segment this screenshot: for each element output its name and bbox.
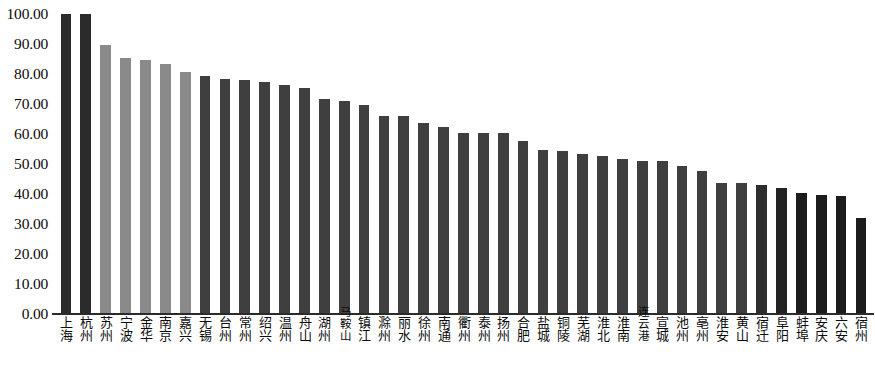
bar <box>816 195 827 314</box>
x-axis-tick-label: 衢州 <box>457 316 470 342</box>
bar-slot <box>275 14 295 314</box>
bar-slot <box>96 14 116 314</box>
bar-slot <box>593 14 613 314</box>
bar <box>836 196 847 314</box>
bar-slot <box>632 14 652 314</box>
bar-slot <box>175 14 195 314</box>
x-axis-tick-label: 宣城 <box>656 316 669 342</box>
bar-slot <box>692 14 712 314</box>
bar <box>617 159 628 314</box>
x-axis-tick-label: 徐州 <box>417 316 430 342</box>
x-axis-tick: 淮南 <box>613 316 633 377</box>
bar-slot <box>215 14 235 314</box>
y-axis-tick-label: 60.00 <box>14 126 48 142</box>
bar <box>220 79 231 314</box>
bar-slot <box>374 14 394 314</box>
bar <box>736 183 747 314</box>
x-axis-tick-label: 宿迁 <box>755 316 768 342</box>
x-axis-tick-label: 阜阳 <box>775 316 788 342</box>
x-axis-tick-label: 铜陵 <box>556 316 569 342</box>
x-axis-tick-label: 舟山 <box>298 316 311 342</box>
y-axis-tick-label: 10.00 <box>14 276 48 292</box>
bar-slot <box>414 14 434 314</box>
x-axis-tick-label: 淮南 <box>616 316 629 342</box>
bar <box>200 76 211 314</box>
x-axis-tick: 芜湖 <box>573 316 593 377</box>
x-axis-tick-label: 常州 <box>238 316 251 342</box>
bar <box>776 188 787 314</box>
x-axis-tick: 杭州 <box>76 316 96 377</box>
x-axis-tick: 苏州 <box>96 316 116 377</box>
bar <box>637 161 648 314</box>
bar <box>80 14 91 314</box>
x-axis-tick-label: 芜湖 <box>576 316 589 342</box>
bar <box>597 156 608 314</box>
x-axis-tick-label: 滁州 <box>377 316 390 342</box>
bar-slot <box>613 14 633 314</box>
bar-slot <box>573 14 593 314</box>
x-axis-tick: 南京 <box>155 316 175 377</box>
x-axis-tick-label: 合肥 <box>517 316 530 342</box>
x-axis-tick: 盐城 <box>533 316 553 377</box>
x-axis-tick: 嘉兴 <box>175 316 195 377</box>
x-axis-tick-label: 温州 <box>278 316 291 342</box>
y-axis-tick-label: 100.00 <box>7 6 48 22</box>
x-axis-tick-label: 湖州 <box>318 316 331 342</box>
x-axis-tick: 宣城 <box>652 316 672 377</box>
x-axis-tick-label: 无锡 <box>198 316 211 342</box>
y-axis-tick-label: 0.00 <box>22 306 48 322</box>
x-axis-tick-label: 上海 <box>59 316 72 342</box>
x-axis-tick-label: 黄山 <box>735 316 748 342</box>
bar-slot <box>195 14 215 314</box>
bar-slot <box>295 14 315 314</box>
bar <box>239 80 250 314</box>
x-axis-tick-label: 淮安 <box>715 316 728 342</box>
bar-slot <box>155 14 175 314</box>
x-axis-tick-label: 丽水 <box>397 316 410 342</box>
x-axis-tick-label: 苏州 <box>99 316 112 342</box>
bar <box>458 133 469 314</box>
bar <box>398 116 409 314</box>
bar-slot <box>136 14 156 314</box>
x-axis-tick: 无锡 <box>195 316 215 377</box>
y-axis-tick-label: 90.00 <box>14 36 48 52</box>
bar-chart: 100.0090.0080.0070.0060.0050.0040.0030.0… <box>0 0 875 377</box>
bar <box>518 141 529 314</box>
x-axis-tick: 铜陵 <box>553 316 573 377</box>
x-axis-tick: 宿迁 <box>752 316 772 377</box>
bar-series <box>56 14 871 314</box>
bar-slot <box>394 14 414 314</box>
x-axis-tick: 阜阳 <box>772 316 792 377</box>
x-axis-tick: 湖州 <box>314 316 334 377</box>
bar-slot <box>712 14 732 314</box>
x-axis-tick: 徐州 <box>414 316 434 377</box>
x-axis-tick-label: 宁波 <box>119 316 132 342</box>
x-axis-tick-label: 镇江 <box>357 316 370 342</box>
bar-slot <box>255 14 275 314</box>
bar-slot <box>235 14 255 314</box>
y-axis-tick-label: 50.00 <box>14 156 48 172</box>
bar <box>796 193 807 314</box>
bar <box>160 64 171 314</box>
bar-slot <box>116 14 136 314</box>
x-axis-tick-label: 嘉兴 <box>179 316 192 342</box>
x-axis-tick: 滁州 <box>374 316 394 377</box>
bar-slot <box>334 14 354 314</box>
x-axis-tick-label: 金华 <box>139 316 152 342</box>
bar-slot <box>354 14 374 314</box>
bar <box>379 116 390 314</box>
bar <box>299 88 310 314</box>
x-axis-tick: 合肥 <box>513 316 533 377</box>
y-axis: 100.0090.0080.0070.0060.0050.0040.0030.0… <box>0 0 52 320</box>
bar <box>319 99 330 314</box>
bar <box>498 133 509 314</box>
bar <box>180 72 191 314</box>
x-axis-tick: 池州 <box>672 316 692 377</box>
x-axis-tick: 连云港 <box>632 316 652 377</box>
x-axis-tick-label: 亳州 <box>695 316 708 342</box>
x-axis-tick-label: 盐城 <box>536 316 549 342</box>
bar <box>856 218 867 314</box>
bar-slot <box>76 14 96 314</box>
bar <box>756 185 767 314</box>
x-axis-tick-label: 绍兴 <box>258 316 271 342</box>
